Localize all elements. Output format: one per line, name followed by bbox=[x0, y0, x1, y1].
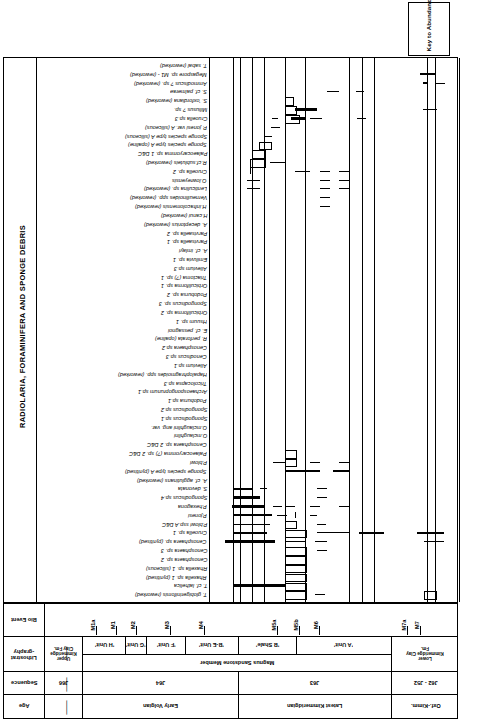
bio-event-marker: M5a bbox=[277, 603, 278, 635]
occurrence-tick bbox=[240, 186, 241, 192]
lithostratigraphy-unit: 'A Unit' bbox=[297, 637, 392, 654]
bio-event-marker: M1a bbox=[96, 603, 97, 635]
occurrence-tick bbox=[240, 450, 241, 456]
occurrence-bar bbox=[339, 171, 349, 172]
occurrence-bar bbox=[247, 180, 259, 181]
occurrence-tick bbox=[427, 433, 428, 439]
occurrence-tick bbox=[427, 212, 428, 218]
taxon-label: Cenodiscus sp.3 bbox=[166, 352, 207, 361]
sequence-row-label: Sequence bbox=[4, 672, 45, 694]
occurrence-tick bbox=[240, 362, 241, 368]
lithostratigraphy-unit: Lower Kimmeridge Clay Fm. bbox=[392, 637, 459, 671]
taxon-label: Alievium sp.3 bbox=[174, 264, 207, 273]
taxon-label: Spongodiscus sp.2 bbox=[161, 405, 207, 414]
occurrence-bar bbox=[359, 532, 384, 535]
occurrence-bar bbox=[320, 197, 330, 198]
occurrence-tick bbox=[427, 168, 428, 174]
occurrence-bar bbox=[317, 532, 349, 533]
taxon-label: T. globigerinifomis (reworked) bbox=[135, 590, 207, 599]
occurrence-tick bbox=[240, 283, 241, 289]
occurrence-bar bbox=[233, 524, 270, 525]
occurrence-tick bbox=[427, 221, 428, 227]
occurrence-tick bbox=[427, 150, 428, 156]
occurrence-bar bbox=[273, 462, 284, 463]
taxon-label: P.hexagona bbox=[178, 502, 207, 511]
taxon-label: Orbiculiforma sp. 2 bbox=[161, 308, 207, 317]
occurrence-tick bbox=[285, 150, 286, 156]
taxon-label: Spongodiscus sp. 3 bbox=[159, 299, 207, 308]
occurrence-bar bbox=[234, 488, 253, 490]
occurrence-tick bbox=[427, 344, 428, 350]
taxon-label: H.infracolomensis (reworked) bbox=[135, 202, 207, 211]
taxon-label: Podobursa sp. 2 bbox=[167, 290, 207, 299]
occurrence-bar bbox=[420, 73, 435, 75]
occurrence-tick bbox=[240, 406, 241, 412]
occurrence-tick bbox=[427, 336, 428, 342]
taxon-label: Cenosphaera sp. 3 bbox=[161, 546, 207, 555]
occurrence-bar bbox=[233, 532, 267, 534]
taxon-label: Alievium sp.1 bbox=[174, 361, 207, 370]
occurrence-tick bbox=[427, 389, 428, 395]
occurrence-bar bbox=[320, 180, 330, 181]
taxon-label: Cruoella sp.3 bbox=[175, 114, 207, 123]
occurrence-tick bbox=[240, 239, 241, 245]
occurrence-tick bbox=[240, 292, 241, 298]
squiggle-break-icon: ⸺ bbox=[62, 700, 71, 715]
taxon-label: Sponge species type A (opaline) bbox=[128, 140, 207, 149]
occurrence-tick bbox=[427, 265, 428, 271]
taxon-label: Palaeocaryomma (?) sp. 2 D&C bbox=[129, 449, 207, 458]
occurrence-tick bbox=[427, 441, 428, 447]
occurrence-tick bbox=[240, 380, 241, 386]
bio-event-marker: M6 bbox=[318, 603, 319, 635]
taxon-label: R. perforata (opaline) bbox=[155, 334, 207, 343]
age-row-label: Age bbox=[4, 695, 45, 718]
taxon-label: H.canui (reworked) bbox=[161, 211, 207, 220]
occurrence-tick bbox=[427, 371, 428, 377]
column-gridline bbox=[349, 58, 350, 602]
occurrence-bar bbox=[271, 127, 280, 128]
bio-event-marker: M7 bbox=[420, 603, 421, 635]
bio-event-label: M5a bbox=[271, 620, 277, 631]
age-cells: Early VolgianLatest KimmeridgianOxf.-Kim… bbox=[45, 695, 457, 718]
taxon-label: A. deceptorius (reworked) bbox=[144, 220, 207, 229]
occurrence-tick bbox=[240, 389, 241, 395]
taxon-label: Sponge species type A (pyritised) bbox=[125, 467, 207, 476]
occurrence-bar bbox=[327, 91, 339, 92]
occurrence-box bbox=[285, 556, 307, 564]
occurrence-tick bbox=[240, 212, 241, 218]
taxon-label: Miliusus ? sp. bbox=[174, 105, 207, 114]
occurrence-tick bbox=[240, 459, 241, 465]
occurrence-tick bbox=[427, 486, 428, 492]
occurrence-tick bbox=[427, 424, 428, 430]
range-chart: RADIOLARIA, FORAMINIFERA AND SPONGE DEBR… bbox=[3, 57, 458, 603]
occurrence-tick bbox=[305, 159, 306, 165]
occurrence-tick bbox=[240, 574, 241, 580]
occurrence-box bbox=[250, 159, 266, 167]
column-gridline bbox=[459, 58, 460, 602]
occurrence-bar bbox=[417, 532, 444, 535]
taxon-label: Rhaxella sp. 1 (siliceous) bbox=[146, 564, 207, 573]
occurrence-bar bbox=[339, 188, 349, 189]
occurrence-tick bbox=[240, 547, 241, 553]
bio-event-label: M7 bbox=[414, 621, 420, 629]
occurrence-bar bbox=[270, 162, 285, 163]
occurrence-tick bbox=[427, 239, 428, 245]
occurrence-bar bbox=[315, 541, 327, 542]
taxon-label: A. cf. agglutinans (reworked) bbox=[137, 476, 207, 485]
column-gridline bbox=[252, 58, 253, 602]
bio-event-label: M1a bbox=[90, 620, 96, 631]
occurrence-tick bbox=[240, 415, 241, 421]
taxon-label: Spongodiscus sp.1 bbox=[161, 414, 207, 423]
taxon-label: S. cf. palmerae bbox=[170, 87, 207, 96]
occurrence-tick bbox=[240, 468, 241, 474]
occurrence-bar bbox=[247, 188, 259, 189]
taxon-label: Hsuum sp. 1 bbox=[176, 317, 207, 326]
occurrence-tick bbox=[285, 477, 286, 483]
occurrence-tick bbox=[427, 62, 428, 68]
occurrence-tick bbox=[427, 521, 428, 527]
bio-event-marker: M3 bbox=[169, 603, 170, 635]
occurrence-bar bbox=[356, 91, 365, 92]
occurrence-tick bbox=[427, 380, 428, 386]
occurrence-tick bbox=[240, 177, 241, 183]
occurrence-bar bbox=[233, 584, 285, 587]
